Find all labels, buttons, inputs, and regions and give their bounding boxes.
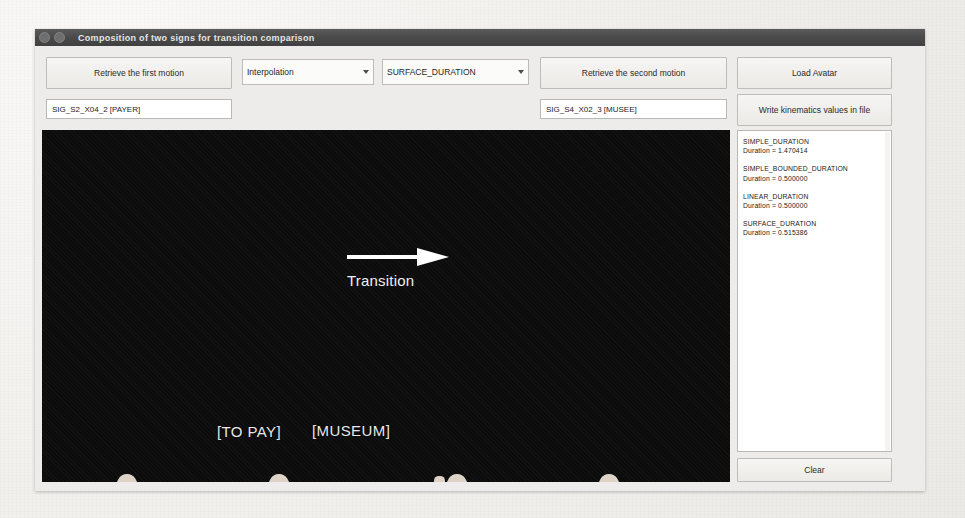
title-bar: Composition of two signs for transition … — [35, 29, 925, 46]
window-title: Composition of two signs for transition … — [78, 33, 315, 43]
load-avatar-button[interactable]: Load Avatar — [737, 57, 892, 89]
metric-row: LINEAR_DURATION Duration = 0.500000 — [743, 192, 886, 210]
duration-mode-select[interactable]: SURFACE_DURATION — [382, 59, 529, 85]
avatar-hand-left — [434, 476, 445, 482]
window-menu-icon[interactable] — [39, 32, 50, 43]
arrow-shaft — [347, 255, 425, 259]
arrow-head — [417, 248, 449, 266]
clear-button-label: Clear — [804, 465, 824, 475]
load-avatar-label: Load Avatar — [792, 68, 837, 78]
avatar-head — [116, 474, 138, 482]
metric-value: Duration = 0.500000 — [743, 174, 886, 183]
metric-row: SURFACE_DURATION Duration = 0.515386 — [743, 219, 886, 237]
transition-label: Transition — [347, 272, 459, 289]
avatar-head — [268, 474, 290, 482]
metric-row: SIMPLE_BOUNDED_DURATION Duration = 0.500… — [743, 164, 886, 182]
avatar-head — [598, 474, 620, 482]
metric-name: SURFACE_DURATION — [743, 219, 886, 228]
second-sign-caption: [MUSEUM] — [312, 422, 390, 439]
metric-row: SIMPLE_DURATION Duration = 1.470414 — [743, 137, 886, 155]
metric-name: SIMPLE_DURATION — [743, 137, 886, 146]
clear-button[interactable]: Clear — [737, 458, 892, 482]
write-kinematics-button[interactable]: Write kinematics values in file — [737, 94, 892, 126]
client-area: Retrieve the first motion Interpolation … — [35, 46, 925, 491]
3d-viewport[interactable]: Transition — [42, 130, 730, 482]
second-motion-input-value: SIG_S4_X02_3 [MUSEE] — [546, 105, 637, 114]
second-motion-input[interactable]: SIG_S4_X02_3 [MUSEE] — [540, 99, 727, 119]
avatar-head — [446, 474, 468, 482]
interpolation-select-value: Interpolation — [247, 67, 360, 77]
interpolation-select[interactable]: Interpolation — [242, 59, 374, 85]
write-kinematics-label: Write kinematics values in file — [759, 105, 870, 115]
metric-value: Duration = 0.515386 — [743, 228, 886, 237]
retrieve-first-motion-button[interactable]: Retrieve the first motion — [46, 57, 232, 89]
metric-value: Duration = 0.500000 — [743, 201, 886, 210]
metric-name: SIMPLE_BOUNDED_DURATION — [743, 164, 886, 173]
results-scrollbar[interactable] — [885, 132, 890, 452]
chevron-down-icon — [518, 70, 524, 74]
retrieve-first-motion-label: Retrieve the first motion — [94, 68, 184, 78]
application-window: Composition of two signs for transition … — [35, 29, 925, 491]
first-motion-input-value: SIG_S2_X04_2 [PAYER] — [52, 105, 140, 114]
kinematics-results-panel[interactable]: SIMPLE_DURATION Duration = 1.470414 SIMP… — [737, 130, 892, 452]
metric-value: Duration = 1.470414 — [743, 146, 886, 155]
retrieve-second-motion-label: Retrieve the second motion — [582, 68, 685, 78]
metric-name: LINEAR_DURATION — [743, 192, 886, 201]
window-help-icon[interactable] — [54, 32, 65, 43]
first-sign-caption: [TO PAY] — [217, 423, 281, 440]
transition-indicator: Transition — [347, 248, 459, 289]
first-motion-input[interactable]: SIG_S2_X04_2 [PAYER] — [46, 99, 232, 119]
retrieve-second-motion-button[interactable]: Retrieve the second motion — [540, 57, 727, 89]
duration-mode-select-value: SURFACE_DURATION — [387, 67, 515, 77]
chevron-down-icon — [363, 70, 369, 74]
arrow-right-icon — [347, 248, 459, 266]
